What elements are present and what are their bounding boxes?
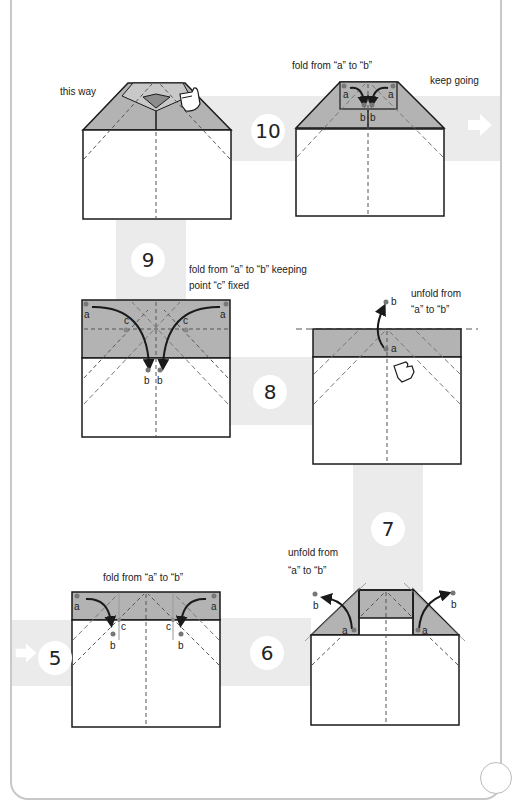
- point-label-c: c: [124, 313, 129, 328]
- point-label-c: c: [166, 619, 171, 634]
- step-10-diagram-a: [83, 83, 231, 219]
- step-9-diagram: [82, 300, 230, 437]
- page-corner-marker: [480, 762, 512, 794]
- hint-this-way: this way: [60, 84, 96, 99]
- step-number-10: 10: [251, 114, 285, 148]
- point-label-a: a: [422, 623, 428, 638]
- step-8-instruction-line1: unfold from: [411, 286, 461, 301]
- point-label-b: b: [144, 373, 150, 388]
- step-number-9: 9: [131, 243, 165, 277]
- step-5-diagram: [72, 592, 220, 727]
- point-label-b: b: [360, 110, 366, 125]
- step-number-5: 5: [38, 641, 72, 675]
- point-label-c: c: [121, 619, 126, 634]
- point-label-a: a: [220, 307, 226, 322]
- step-5-instruction: fold from “a” to “b”: [103, 570, 183, 585]
- point-label-a: a: [388, 87, 394, 102]
- point-label-a: a: [343, 87, 349, 102]
- point-label-a: a: [391, 341, 397, 356]
- step-10-instruction: fold from “a” to “b”: [292, 58, 372, 73]
- point-label-b: b: [451, 597, 457, 612]
- step-number-7: 7: [371, 512, 405, 546]
- step-6-instruction-line2: “a” to “b”: [288, 563, 326, 578]
- point-label-b: b: [178, 638, 184, 653]
- step-number-8: 8: [253, 375, 287, 409]
- point-label-b: b: [391, 294, 397, 309]
- step-number-6: 6: [250, 636, 284, 670]
- step-9-instruction-line2: point “c” fixed: [189, 278, 249, 293]
- keep-going-label: keep going: [430, 73, 479, 88]
- point-label-a: a: [84, 307, 90, 322]
- point-label-b: b: [157, 373, 163, 388]
- step-6-instruction-line1: unfold from: [288, 545, 338, 560]
- point-label-b: b: [370, 110, 376, 125]
- point-label-a: a: [342, 623, 348, 638]
- point-label-c: c: [183, 313, 188, 328]
- step-9-instruction-line1: fold from “a” to “b” keeping: [189, 262, 307, 277]
- point-label-a: a: [211, 599, 217, 614]
- step-8-instruction-line2: “a” to “b”: [411, 302, 449, 317]
- step-10-diagram-b: [296, 82, 444, 216]
- point-label-b: b: [110, 638, 116, 653]
- step-6-diagram: [305, 583, 465, 725]
- point-label-a: a: [74, 599, 80, 614]
- step-8-diagram: [296, 300, 478, 465]
- point-label-b: b: [313, 598, 319, 613]
